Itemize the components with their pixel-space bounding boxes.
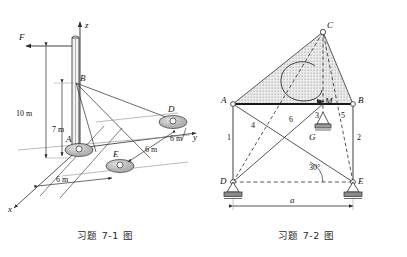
axis-x-label: x (7, 204, 12, 214)
point-A-label: A (65, 134, 72, 144)
point-G-label: G (309, 132, 316, 142)
diagonal-members (233, 32, 353, 182)
pole (72, 36, 79, 150)
point-E-label: E (112, 149, 119, 159)
anchor-A (65, 144, 93, 157)
member-2-label: 2 (357, 133, 361, 142)
dimension-a-label: a (290, 195, 295, 205)
dimension-6m-e-label: 6 m (145, 145, 158, 154)
dimension-6m-x (38, 178, 112, 186)
figure-7-2-drawing: M A B C D E G 1 2 3 4 5 6 (205, 0, 407, 228)
figure-7-2: M A B C D E G 1 2 3 4 5 6 (205, 0, 407, 257)
point-D-label: D (167, 104, 175, 114)
point-E-label: E (357, 176, 364, 186)
anchor-D (159, 116, 187, 129)
axis-x (14, 148, 80, 208)
axis-z-label: z (84, 20, 89, 30)
figure-7-1: z y x F (0, 0, 210, 257)
member-5-label: 5 (341, 111, 345, 120)
figure-7-2-caption: 习题 7-2 图 (205, 228, 407, 242)
figure-7-1-drawing: z y x F (0, 0, 210, 228)
member-1-label: 1 (227, 133, 231, 142)
force-F-label: F (18, 32, 25, 42)
joints (231, 29, 356, 184)
member-4-label: 4 (251, 121, 255, 130)
angle-30-label: 30° (309, 163, 320, 172)
point-A-label: A (220, 95, 227, 105)
figure-sheet: z y x F (0, 0, 407, 257)
point-B-label: B (80, 73, 86, 83)
moment-M-label: M (324, 96, 333, 106)
axis-y-label: y (192, 132, 197, 142)
dimension-7m-label: 7 m (52, 125, 65, 134)
dimension-6m-x-label: 6 m (56, 175, 69, 184)
dimension-10m-label: 10 m (16, 109, 33, 118)
member-3-label: 3 (315, 111, 319, 120)
dimension-6m-d-label: 6 m (170, 134, 183, 143)
point-B-label: B (358, 95, 364, 105)
plate-ABC (233, 32, 353, 104)
point-C-label: C (327, 20, 334, 30)
figure-7-1-caption: 习题 7-1 图 (0, 228, 210, 242)
anchor-E (106, 160, 134, 173)
member-6-label: 6 (289, 115, 293, 124)
point-D-label: D (219, 176, 227, 186)
